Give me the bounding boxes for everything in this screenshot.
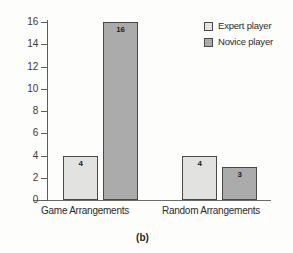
bar-novice-random-arrangements: 3 — [222, 167, 257, 200]
bar-expert-game-arrangements: 4 — [63, 156, 98, 201]
legend-label-expert: Expert player — [218, 21, 271, 31]
y-axis-tick-label: 12 — [16, 62, 38, 72]
legend-label-novice: Novice player — [218, 37, 273, 47]
y-axis-tick-label: 2 — [16, 173, 38, 183]
legend-item-novice: Novice player — [204, 34, 292, 50]
figure-caption: (b) — [0, 232, 285, 243]
y-axis-tick-mark — [41, 156, 48, 157]
x-axis-category-label-random: Random Arrangements — [152, 205, 270, 216]
bar-value-label: 16 — [104, 26, 137, 34]
y-axis-tick-mark — [41, 111, 48, 112]
y-axis-tick-label: 14 — [16, 39, 38, 49]
y-axis-tick-label: 10 — [16, 84, 38, 94]
bar-value-label: 3 — [223, 171, 256, 179]
y-axis-tick-label: 6 — [16, 128, 38, 138]
y-axis-tick-mark — [41, 67, 48, 68]
y-axis-tick-label: 8 — [16, 106, 38, 116]
chart-legend: Expert player Novice player — [204, 18, 292, 50]
y-axis-tick-label: 0 — [16, 195, 38, 205]
bar-value-label: 4 — [64, 160, 97, 168]
y-axis-tick-mark — [41, 200, 48, 201]
y-axis-tick-mark — [41, 133, 48, 134]
x-axis-category-label-game: Game Arrangements — [33, 205, 137, 216]
legend-swatch-expert-icon — [204, 22, 213, 31]
y-axis-tick-mark — [41, 44, 48, 45]
legend-item-expert: Expert player — [204, 18, 292, 34]
bar-novice-game-arrangements: 16 — [103, 22, 138, 200]
y-axis-tick-mark — [41, 89, 48, 90]
y-axis-tick-mark — [41, 178, 48, 179]
y-axis-tick-mark — [41, 22, 48, 23]
x-axis-line — [33, 200, 271, 201]
y-axis-tick-label: 4 — [16, 151, 38, 161]
figure-panel-b: 1614121086420 41643 Game Arrangements Ra… — [0, 0, 293, 253]
legend-swatch-novice-icon — [204, 38, 213, 47]
bar-value-label: 4 — [183, 160, 216, 168]
bar-expert-random-arrangements: 4 — [182, 156, 217, 201]
y-axis-tick-label: 16 — [16, 17, 38, 27]
